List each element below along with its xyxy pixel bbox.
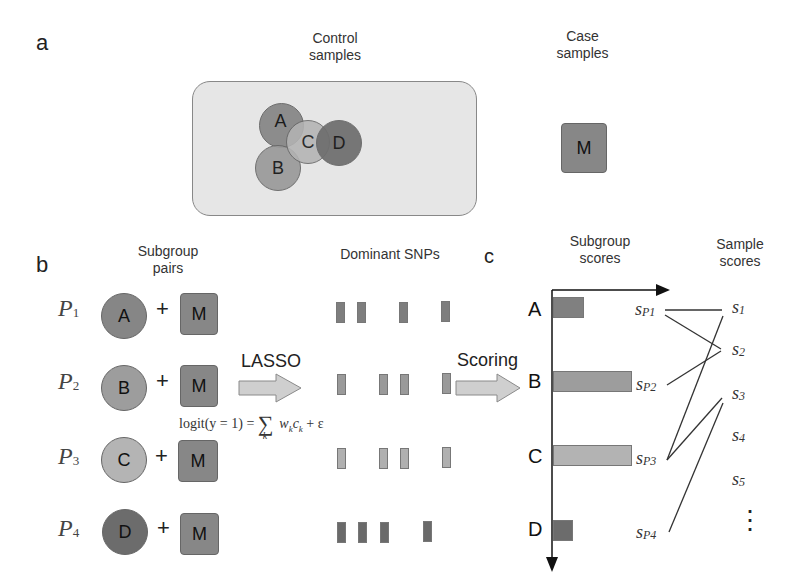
subgroup-score-sp1: sP1 <box>635 299 655 320</box>
scores-axes-and-links <box>0 0 794 587</box>
category-d: D <box>528 518 542 541</box>
subgroup-score-sp4: sP4 <box>636 522 656 543</box>
category-c: C <box>528 445 542 468</box>
score-bar-b <box>553 371 632 392</box>
sample-score-s1: s1 <box>732 297 745 318</box>
category-a: A <box>528 298 541 321</box>
score-bar-d <box>553 520 573 541</box>
score-bar-a <box>553 297 584 318</box>
score-bar-c <box>553 445 632 466</box>
sample-score-s3: s3 <box>732 383 745 404</box>
sample-score-s4: s4 <box>732 425 745 446</box>
sample-score-s5: s5 <box>732 469 745 490</box>
subgroup-score-sp2: sP2 <box>636 374 656 395</box>
sample-score-s2: s2 <box>732 339 745 360</box>
category-b: B <box>528 370 541 393</box>
ellipsis-vertical: ⋮ <box>737 505 763 535</box>
subgroup-score-sp3: sP3 <box>636 448 656 469</box>
